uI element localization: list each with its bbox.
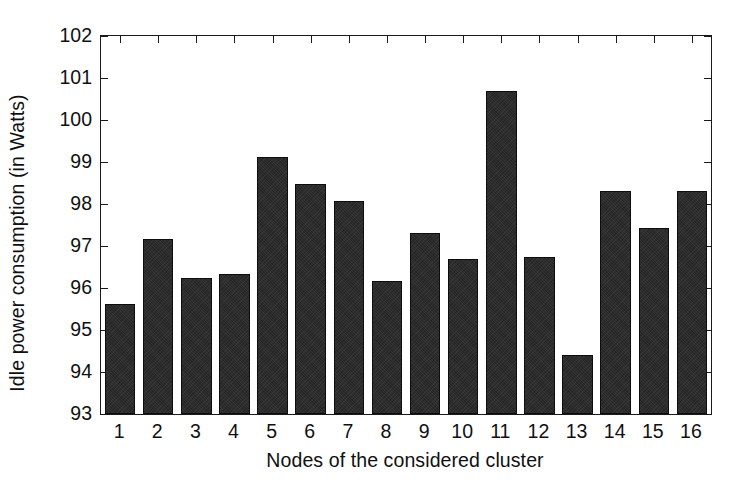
bar	[219, 274, 250, 414]
plot-area	[100, 35, 712, 415]
y-axis-tick	[101, 204, 108, 205]
bar	[410, 233, 441, 414]
x-axis-title: Nodes of the considered cluster	[100, 449, 710, 472]
y-axis-tick	[101, 120, 108, 121]
x-axis-tick	[311, 36, 312, 43]
bar	[295, 184, 326, 414]
bar	[448, 259, 479, 414]
y-axis-tick	[704, 36, 711, 37]
bar	[181, 278, 212, 415]
y-axis-title: Idle power consumption (in Watts)	[0, 0, 34, 486]
x-axis-tick	[234, 36, 235, 43]
x-axis-tick	[425, 36, 426, 43]
x-axis-tick	[120, 36, 121, 43]
plot-inner	[101, 36, 711, 414]
bar	[257, 157, 288, 414]
x-axis-tick	[387, 36, 388, 43]
bar	[105, 304, 136, 414]
x-axis-tick	[539, 36, 540, 43]
y-axis-tick	[704, 120, 711, 121]
bar	[334, 201, 365, 414]
x-axis-tick	[654, 36, 655, 43]
x-axis-tick	[578, 36, 579, 43]
y-axis-tick-label: 98	[32, 192, 92, 215]
x-axis-tick	[349, 36, 350, 43]
y-axis-tick-label: 95	[32, 318, 92, 341]
bar	[143, 239, 174, 414]
y-axis-tick	[101, 162, 108, 163]
x-axis-tick	[463, 36, 464, 43]
bar	[639, 228, 670, 414]
y-axis-tick	[704, 78, 711, 79]
x-axis-tick	[196, 36, 197, 43]
y-axis-tick-label: 97	[32, 234, 92, 257]
bar	[486, 91, 517, 414]
x-axis-tick	[158, 36, 159, 43]
y-axis-tick-label: 101	[32, 66, 92, 89]
y-axis-tick	[101, 288, 108, 289]
y-axis-tick	[101, 78, 108, 79]
x-axis-tick	[692, 36, 693, 43]
y-axis-tick-label: 93	[32, 402, 92, 425]
x-axis-tick	[616, 36, 617, 43]
y-axis-tick-label: 94	[32, 360, 92, 383]
y-axis-tick	[101, 36, 108, 37]
y-axis-tick	[704, 162, 711, 163]
y-axis-tick-label: 100	[32, 108, 92, 131]
y-axis-tick	[101, 246, 108, 247]
y-axis-tick	[101, 414, 108, 415]
chart-figure: Idle power consumption (in Watts) Nodes …	[0, 0, 742, 486]
y-axis-tick-label: 96	[32, 276, 92, 299]
bar	[600, 191, 631, 414]
bar	[562, 355, 593, 414]
x-axis-tick	[501, 36, 502, 43]
x-axis-tick	[273, 36, 274, 43]
y-axis-tick-label: 102	[32, 24, 92, 47]
x-axis-tick-label: 16	[661, 420, 721, 443]
y-axis-tick-label: 99	[32, 150, 92, 173]
bar	[524, 257, 555, 414]
y-axis-tick	[704, 414, 711, 415]
bar	[372, 281, 403, 414]
bar	[677, 191, 708, 414]
